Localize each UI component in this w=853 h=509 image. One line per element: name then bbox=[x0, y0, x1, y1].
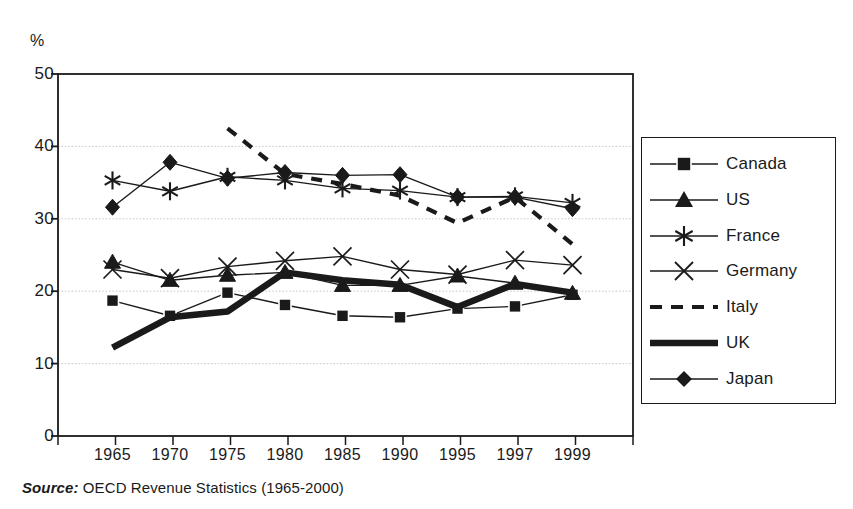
datapoint-canada-3 bbox=[279, 299, 291, 311]
datapoint-canada-0 bbox=[107, 295, 119, 307]
datapoint-canada-7 bbox=[509, 300, 521, 312]
legend-marker-none bbox=[642, 330, 726, 356]
legend-label-us: US bbox=[726, 190, 750, 210]
chart-legend: CanadaUSFranceGermanyItalyUKJapan bbox=[641, 137, 836, 404]
legend-label-canada: Canada bbox=[726, 154, 787, 174]
legend-swatch-italy bbox=[642, 294, 726, 320]
datapoint-japan-0 bbox=[106, 199, 120, 215]
legend-item-italy[interactable]: Italy bbox=[642, 289, 835, 325]
source-note: Source: OECD Revenue Statistics (1965-20… bbox=[22, 479, 344, 496]
legend-label-france: France bbox=[726, 226, 780, 246]
legend-marker-filled-triangle bbox=[642, 187, 726, 213]
legend-swatch-germany bbox=[642, 258, 726, 284]
legend-swatch-canada bbox=[642, 151, 726, 177]
plot-frame bbox=[58, 74, 633, 436]
datapoint-japan-5 bbox=[393, 167, 407, 183]
legend-marker-filled-diamond bbox=[642, 366, 726, 392]
legend-item-japan[interactable]: Japan bbox=[642, 361, 835, 397]
legend-marker-asterisk bbox=[642, 223, 726, 249]
legend-marker-none bbox=[642, 294, 726, 320]
legend-label-japan: Japan bbox=[726, 369, 773, 389]
diamond-icon bbox=[676, 371, 692, 387]
legend-label-uk: UK bbox=[726, 333, 750, 353]
chart-figure: % 50403020100 19651970197519801985199019… bbox=[0, 0, 853, 509]
datapoint-japan-2 bbox=[221, 170, 235, 186]
legend-item-france[interactable]: France bbox=[642, 218, 835, 254]
series-line-germany bbox=[113, 256, 573, 278]
legend-marker-filled-square bbox=[642, 151, 726, 177]
datapoint-japan-1 bbox=[163, 154, 177, 170]
datapoint-japan-6 bbox=[451, 189, 465, 205]
square-icon bbox=[677, 157, 691, 171]
datapoint-japan-8 bbox=[566, 201, 580, 217]
datapoint-canada-2 bbox=[222, 287, 234, 299]
legend-item-germany[interactable]: Germany bbox=[642, 254, 835, 290]
legend-swatch-japan bbox=[642, 366, 726, 392]
legend-marker-cross-x bbox=[642, 258, 726, 284]
legend-swatch-us bbox=[642, 187, 726, 213]
legend-swatch-france bbox=[642, 223, 726, 249]
datapoint-us-0 bbox=[105, 254, 121, 268]
datapoint-canada-5 bbox=[394, 311, 406, 323]
triangle-icon bbox=[675, 191, 693, 207]
source-label: Source: bbox=[22, 479, 79, 496]
legend-label-italy: Italy bbox=[726, 297, 758, 317]
legend-swatch-uk bbox=[642, 330, 726, 356]
legend-label-germany: Germany bbox=[726, 261, 797, 281]
datapoint-japan-4 bbox=[336, 167, 350, 183]
datapoint-us-2 bbox=[220, 267, 236, 281]
source-text: OECD Revenue Statistics (1965-2000) bbox=[79, 479, 344, 496]
legend-item-us[interactable]: US bbox=[642, 182, 835, 218]
legend-item-canada[interactable]: Canada bbox=[642, 146, 835, 182]
datapoint-canada-4 bbox=[337, 310, 349, 322]
legend-item-uk[interactable]: UK bbox=[642, 325, 835, 361]
